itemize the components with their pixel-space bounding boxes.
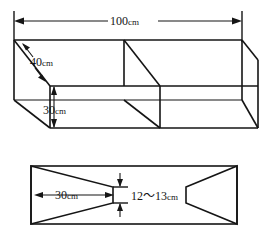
base-left-arrowhead <box>34 192 43 198</box>
height-top-arrowhead <box>51 86 57 95</box>
gap-lower-arrowhead <box>117 203 123 211</box>
depth-upper-arrowhead <box>22 43 30 51</box>
divider-top-diagonal-edge <box>124 40 160 86</box>
base-label: 30cm <box>55 188 78 202</box>
length-left-arrowhead <box>14 18 24 25</box>
base-dimension-group: 30cm <box>34 188 114 202</box>
height-bottom-arrowhead <box>51 119 57 128</box>
length-right-arrowhead <box>232 18 242 25</box>
depth-dimension-group: 40cm <box>22 43 53 82</box>
box-right-top-depth-edge <box>242 40 258 60</box>
technical-drawing: 100cm <box>0 0 268 234</box>
height-label: 30cm <box>43 103 66 117</box>
height-dimension-group: 30cm <box>43 86 66 128</box>
depth-label: 40cm <box>30 55 53 69</box>
length-dimension-group: 100cm <box>14 11 242 42</box>
box-right-bottom-depth-edge <box>242 100 258 128</box>
diagram-canvas: 100cm <box>0 0 268 234</box>
plan-right-trapezoid <box>186 166 237 224</box>
gap-upper-arrowhead <box>117 179 123 187</box>
divider-bottom-diagonal-edge <box>124 100 160 128</box>
gap-label: 12～13cm <box>131 189 178 203</box>
gap-dimension-group: 12～13cm <box>113 173 178 217</box>
length-label: 100cm <box>110 14 139 28</box>
